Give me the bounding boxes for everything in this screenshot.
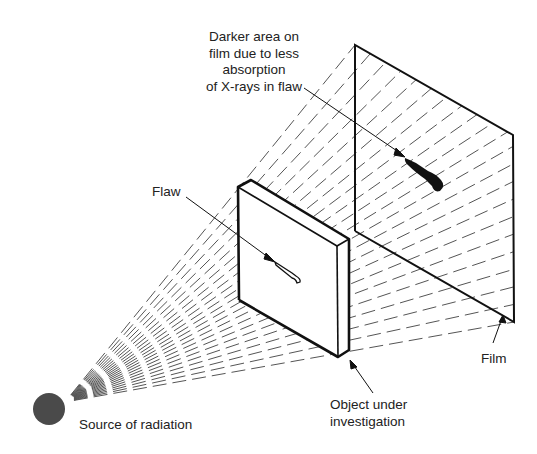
darker-area-line-2: film due to less <box>190 46 318 63</box>
darker-area-label: Darker area on film due to less absorpti… <box>190 29 318 95</box>
source-label: Source of radiation <box>79 417 192 433</box>
object-under-investigation <box>238 180 349 357</box>
film-label: Film <box>481 351 507 367</box>
darker-area-line-3: absorption <box>190 62 318 79</box>
flaw-label: Flaw <box>152 184 181 200</box>
object-label-line-1: Object under <box>330 396 407 413</box>
darker-area-line-1: Darker area on <box>190 29 318 46</box>
object-label: Object under investigation <box>330 396 407 430</box>
darker-area-line-4: of X-rays in flaw <box>190 79 318 96</box>
radiation-source <box>33 393 65 425</box>
object-label-line-2: investigation <box>330 413 407 430</box>
